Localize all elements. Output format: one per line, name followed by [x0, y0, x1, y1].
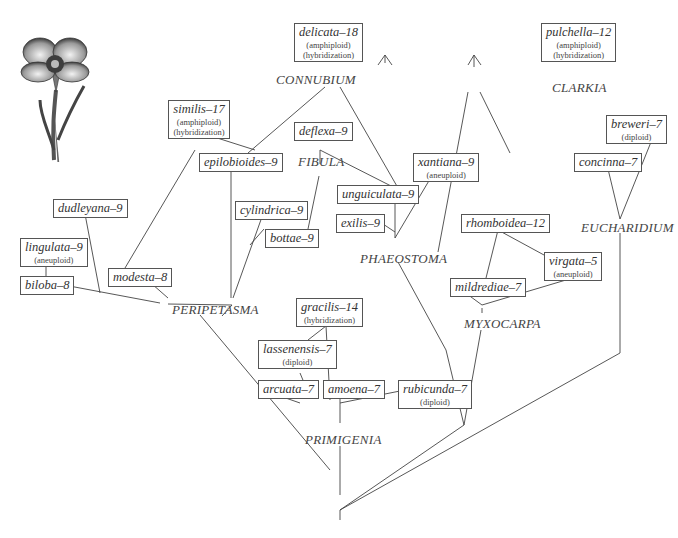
species-name: cylindrica–9	[240, 203, 303, 218]
species-name: xantiana–9	[418, 155, 474, 170]
branch-line	[308, 176, 319, 229]
species-node-delicata: delicata–18(amphiploid)(hybridization)	[294, 23, 363, 62]
species-name: gracilis–14	[301, 300, 358, 315]
branch-line	[308, 326, 326, 340]
section-label-primigenia: PRIMIGENIA	[305, 432, 382, 448]
branch-line	[64, 285, 160, 303]
species-node-lingulata: lingulata–9(aneuploid)	[20, 238, 88, 267]
species-note: (hybridization)	[301, 315, 358, 325]
species-name: similis–17	[173, 102, 225, 117]
species-node-biloba: biloba–8	[20, 276, 74, 295]
species-name: dudleyana–9	[58, 201, 123, 216]
species-node-modesta: modesta–8	[108, 268, 172, 287]
species-node-gracilis: gracilis–14(hybridization)	[296, 298, 363, 327]
species-name: breweri–7	[611, 117, 662, 132]
branch-line	[340, 353, 620, 510]
species-node-bottae: bottae–9	[265, 229, 319, 248]
section-label-fibula: FIBULA	[298, 154, 345, 170]
species-note: (diploid)	[403, 397, 467, 407]
species-note: (hybridization)	[299, 50, 358, 60]
branch-line	[248, 87, 325, 153]
species-name: concinna–7	[579, 155, 637, 170]
species-node-amoena: amoena–7	[323, 380, 385, 399]
section-label-phaeostoma: PHAEOSTOMA	[360, 251, 447, 267]
species-name: unguiculata–9	[342, 187, 414, 202]
species-note: (hybridization)	[546, 50, 611, 60]
branch-line	[385, 55, 392, 65]
species-name: amoena–7	[328, 382, 380, 397]
branch-line	[474, 55, 481, 65]
branch-line	[498, 230, 544, 255]
species-name: biloba–8	[25, 278, 69, 293]
species-node-concinna: concinna–7	[574, 153, 642, 172]
species-node-deflexa: deflexa–9	[294, 122, 353, 141]
species-note: (amphiploid)	[546, 40, 611, 50]
species-name: delicata–18	[299, 25, 358, 40]
species-name: rubicunda–7	[403, 382, 467, 397]
species-name: mildrediae–7	[455, 280, 521, 295]
branch-line	[480, 92, 510, 153]
branch-line	[464, 330, 481, 425]
species-node-unguiculata: unguiculata–9	[337, 185, 419, 204]
species-name: rhomboidea–12	[466, 216, 545, 231]
species-note: (aneuploid)	[25, 255, 83, 265]
species-name: exilis–9	[341, 216, 380, 231]
species-node-arcuata: arcuata–7	[258, 380, 319, 399]
species-note: (amphiploid)	[299, 40, 358, 50]
species-note: (hybridization)	[173, 127, 225, 137]
species-node-similis: similis–17(amphiploid)(hybridization)	[168, 100, 230, 139]
species-node-dudleyana: dudleyana–9	[53, 199, 128, 218]
species-node-lassenensis: lassenensis–7(diploid)	[258, 340, 337, 369]
species-node-exilis: exilis–9	[336, 214, 385, 233]
branch-line	[125, 150, 195, 268]
species-node-pulchella: pulchella–12(amphiploid)(hybridization)	[541, 23, 616, 62]
species-node-mildrediae: mildrediae–7	[450, 278, 526, 297]
branch-line	[378, 55, 385, 65]
section-label-myxocarpa: MYXOCARPA	[464, 316, 541, 332]
branch-line	[608, 169, 620, 219]
species-note: (diploid)	[263, 357, 332, 367]
species-name: virgata–5	[549, 254, 597, 269]
species-node-epilobioides: epilobioides–9	[199, 153, 283, 172]
species-name: epilobioides–9	[204, 155, 278, 170]
species-name: arcuata–7	[263, 382, 314, 397]
species-name: lassenensis–7	[263, 342, 332, 357]
species-note: (diploid)	[611, 132, 662, 142]
species-note: (aneuploid)	[418, 170, 474, 180]
species-node-cylindrica: cylindrica–9	[235, 201, 308, 220]
section-label-clarkia: CLARKIA	[552, 80, 607, 96]
species-note: (aneuploid)	[549, 269, 597, 279]
species-node-virgata: virgata–5(aneuploid)	[544, 252, 602, 281]
section-label-peripetasma: PERIPETASMA	[172, 302, 259, 318]
species-name: bottae–9	[270, 231, 314, 246]
branch-line	[233, 214, 263, 298]
clarkia-flower-illustration	[14, 20, 94, 162]
species-node-xantiana: xantiana–9(aneuploid)	[413, 153, 479, 182]
branch-line	[468, 55, 474, 65]
species-name: modesta–8	[113, 270, 167, 285]
species-name: deflexa–9	[299, 124, 348, 139]
section-label-connubium: CONNUBIUM	[276, 72, 356, 88]
species-note: (amphiploid)	[173, 117, 225, 127]
species-node-rhomboidea: rhomboidea–12	[461, 214, 550, 233]
species-name: lingulata–9	[25, 240, 83, 255]
branch-line	[486, 230, 498, 278]
species-node-breweri: breweri–7(diploid)	[606, 115, 667, 144]
branch-line	[398, 262, 446, 350]
species-name: pulchella–12	[546, 25, 611, 40]
species-node-rubicunda: rubicunda–7(diploid)	[398, 380, 472, 409]
section-label-eucharidium: EUCHARIDIUM	[581, 220, 674, 236]
